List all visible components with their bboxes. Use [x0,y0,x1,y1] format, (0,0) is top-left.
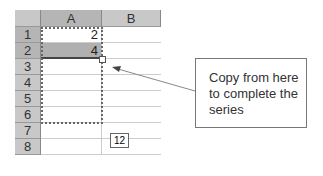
callout-line-2: to complete the [209,86,306,102]
callout-box: Copy from here to complete the series [195,58,307,128]
callout-line-3: series [209,102,306,118]
callout-line-1: Copy from here [209,70,306,86]
